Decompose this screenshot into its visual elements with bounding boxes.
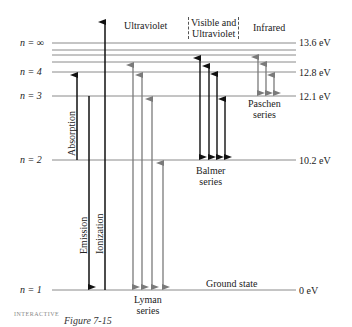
level-label-n-inf: n = ∞ <box>20 37 44 48</box>
lyman-series-arrows <box>133 65 163 287</box>
ionization-label: Ionization <box>94 213 105 254</box>
interactive-logo: INTERACTIVE <box>14 311 59 317</box>
level-label-n-4: n = 4 <box>20 66 42 77</box>
energy-label-12-8: 12.8 eV <box>299 67 331 78</box>
ground-state-label: Ground state <box>206 278 257 289</box>
figure-caption: Figure 7-15 <box>64 315 112 326</box>
region-infrared: Infrared <box>253 22 285 33</box>
energy-label-12-1: 12.1 eV <box>299 91 331 102</box>
region-visible-uv-line1: Visible and <box>191 17 236 28</box>
energy-label-13-6: 13.6 eV <box>299 37 331 48</box>
balmer-series-arrows <box>200 58 225 157</box>
absorption-label: Absorption <box>66 111 77 156</box>
level-label-n-1: n = 1 <box>20 284 42 295</box>
level-label-n-2: n = 2 <box>20 154 42 165</box>
region-visible-uv: Visible and Ultraviolet <box>188 17 239 39</box>
balmer-series-label: Balmer series <box>196 165 225 187</box>
energy-label-10-2: 10.2 eV <box>299 155 331 166</box>
emission-label: Emission <box>78 217 89 254</box>
region-ultraviolet: Ultraviolet <box>124 20 167 31</box>
level-label-n-3: n = 3 <box>20 90 42 101</box>
region-visible-uv-line2: Ultraviolet <box>191 28 236 39</box>
energy-label-0: 0 eV <box>299 285 318 296</box>
paschen-series-label: Paschen series <box>248 98 281 120</box>
lyman-series-label: Lyman series <box>134 294 162 316</box>
